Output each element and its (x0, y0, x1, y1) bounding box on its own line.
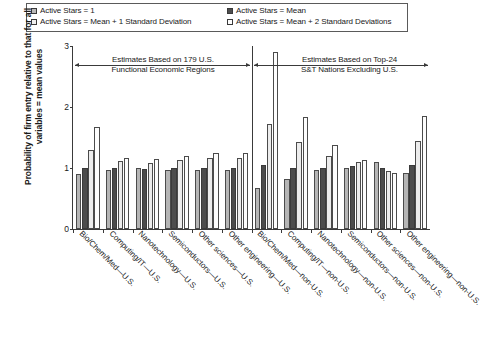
plot-area: 0123 Estimates Based on 179 U.S. Functio… (72, 46, 430, 230)
bar (409, 165, 414, 229)
bar-group (192, 46, 222, 229)
bar-group (73, 46, 103, 229)
bar-group (371, 46, 401, 229)
bar-group (162, 46, 192, 229)
legend-label-series-4: Active Stars = Mean + 2 Standard Deviati… (236, 17, 391, 26)
bar (243, 153, 248, 229)
bar (76, 174, 81, 230)
bar (422, 116, 427, 229)
bar (344, 168, 349, 229)
legend-item-active-stars-mean-sd2: Active Stars = Mean + 2 Standard Deviati… (227, 17, 391, 26)
x-axis-label: Computing/IT—U.S. (107, 229, 163, 285)
bar (207, 158, 212, 229)
bar-group (222, 46, 252, 229)
bar (213, 153, 218, 229)
bar (118, 161, 123, 229)
bar-group (103, 46, 133, 229)
chart-legend: Active Stars = 1 Active Stars = Mean Act… (26, 3, 408, 32)
bar (177, 160, 182, 229)
bar-group (252, 46, 282, 229)
bar (82, 168, 87, 229)
legend-row-2: Active Stars = Mean + 1 Standard Deviati… (31, 17, 404, 28)
legend-row-1: Active Stars = 1 Active Stars = Mean (31, 6, 404, 17)
x-axis-labels: Bio/Chem/Med—U.S.Computing/IT—U.S.Nanote… (72, 229, 429, 337)
y-axis-tick-label: 2 (57, 103, 69, 111)
bar (124, 158, 129, 229)
bar (362, 160, 367, 229)
x-axis-label: Bio/Chem/Med—U.S. (78, 229, 137, 288)
legend-label-series-1: Active Stars = 1 (40, 6, 95, 15)
bar (284, 179, 289, 229)
bar (290, 168, 295, 229)
legend-swatch-series-2 (227, 8, 233, 14)
y-axis-tick-label: 3 (57, 42, 69, 50)
bar (255, 188, 260, 229)
bar (88, 150, 93, 229)
bar (165, 170, 170, 229)
bar-group (133, 46, 163, 229)
bar (403, 173, 408, 229)
bar (94, 127, 99, 229)
bar (201, 168, 206, 229)
legend-swatch-series-4 (227, 19, 233, 25)
bar (231, 168, 236, 229)
bar (136, 168, 141, 229)
bar-group (400, 46, 430, 229)
bar (314, 170, 319, 229)
legend-label-series-2: Active Stars = Mean (236, 6, 306, 15)
bar (392, 173, 397, 229)
legend-item-active-stars-1: Active Stars = 1 (31, 6, 227, 15)
bar (374, 162, 379, 229)
x-axis-label: Semiconductors—U.S. (167, 229, 229, 291)
bar (106, 170, 111, 229)
x-axis-label: Nanotechnology—U.S. (137, 229, 200, 292)
bar (303, 117, 308, 229)
bar (112, 168, 117, 229)
bar (332, 145, 337, 229)
annotation-arrow-line (254, 65, 429, 66)
legend-item-active-stars-mean: Active Stars = Mean (227, 6, 306, 15)
bar (296, 142, 301, 229)
x-axis-label: Other sciences—U.S. (197, 229, 256, 288)
bar (171, 168, 176, 229)
bar (273, 52, 278, 229)
bar-group (341, 46, 371, 229)
legend-item-active-stars-mean-sd1: Active Stars = Mean + 1 Standard Deviati… (31, 17, 227, 26)
annotation-arrow-head-left (75, 63, 79, 67)
annotation-arrow-head-right (246, 63, 250, 67)
bar (237, 158, 242, 229)
bar (225, 170, 230, 229)
bar (154, 159, 159, 229)
y-axis-tick-label: 1 (57, 164, 69, 172)
bar (142, 169, 147, 229)
annotation-arrow-head-left (254, 63, 258, 67)
annotation-arrow-head-right (424, 63, 428, 67)
bar (261, 165, 266, 229)
bar-group (311, 46, 341, 229)
bar (356, 162, 361, 229)
y-axis-tick-label: 0 (57, 225, 69, 233)
bar (148, 163, 153, 229)
bar (415, 141, 420, 229)
bar (386, 171, 391, 229)
legend-label-series-3: Active Stars = Mean + 1 Standard Deviati… (40, 17, 191, 26)
bar (267, 124, 272, 229)
bar-groups (73, 46, 430, 229)
bar (380, 168, 385, 229)
bar (184, 156, 189, 229)
bar (326, 156, 331, 229)
bar (320, 168, 325, 229)
y-axis-title: Probability of firm entry relative to th… (23, 2, 44, 192)
bar-group (281, 46, 311, 229)
annotation-arrow-line (75, 65, 250, 66)
bar (195, 170, 200, 229)
bar (350, 166, 355, 229)
